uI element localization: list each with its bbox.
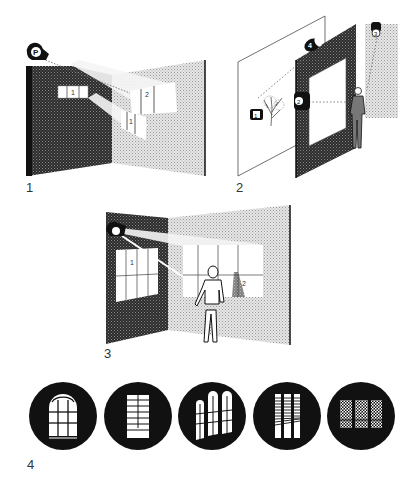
figure-label-1: 1 [26, 180, 33, 195]
gobo-arched-window [29, 382, 97, 450]
figure-label-2: 2 [236, 180, 243, 195]
gobo-lattice-window [327, 382, 395, 450]
figure-2: 4 1 2 3 2 [236, 16, 398, 195]
projector-2-icon: 2 [294, 92, 310, 110]
projector-3-icon: 3 [371, 22, 381, 37]
projection-number: 2 [145, 91, 149, 98]
projector-p-icon: P [27, 43, 49, 60]
projection-number: 2 [242, 280, 246, 287]
projector-number: 4 [308, 42, 312, 49]
wall-edge [26, 66, 32, 176]
window-projection-1: 1 [116, 248, 158, 302]
projector-1-icon: 1 [250, 109, 263, 120]
figure-label-3: 3 [104, 346, 111, 361]
window-projection-1: 1 [58, 86, 88, 98]
figure-1: 1 2 1 P 1 [26, 43, 205, 195]
gobo-three-arched-windows [178, 382, 246, 450]
figure-label-4: 4 [27, 457, 34, 472]
window-projection-2: 2 [183, 245, 263, 297]
projection-number: 1 [130, 259, 134, 266]
light-wall [365, 24, 398, 118]
projector-label: P [33, 48, 39, 57]
figure-3: 1 2 3 [104, 205, 290, 361]
dark-wall [28, 66, 112, 176]
gobo-tall-window [104, 382, 172, 450]
projection-number: 1 [71, 89, 75, 96]
figure-4: 4 [27, 382, 395, 472]
gobo-venetian-blinds [253, 382, 321, 450]
projection-number: 1 [129, 118, 133, 125]
illustration-canvas: 1 2 1 P 1 [0, 0, 417, 489]
